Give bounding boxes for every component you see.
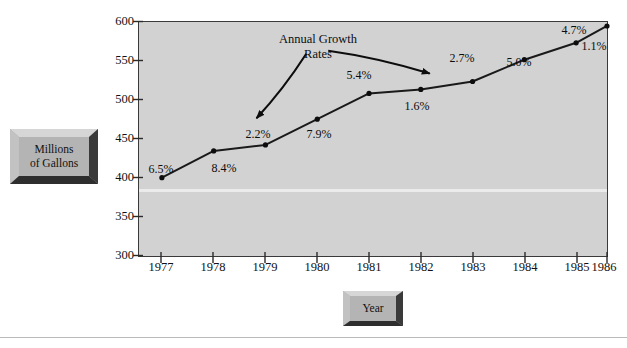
point-label-1980: 7.9% [307, 128, 332, 140]
data-markers [159, 23, 609, 180]
x-tick-1982: 1982 [409, 261, 434, 274]
point-label-1986: 1.1% [582, 40, 607, 52]
x-tick-1984: 1984 [513, 261, 538, 274]
annotation-label: Annual Growth Rates [258, 32, 378, 63]
footer-divider [0, 337, 627, 338]
point-label-1982: 1.6% [405, 100, 430, 112]
chart-figure: 600 550 500 450 400 350 300 [0, 0, 627, 348]
y-tick-450: 450 [100, 132, 134, 145]
annotation-arrow-left [256, 54, 306, 118]
x-tick-1979: 1979 [253, 261, 278, 274]
data-line [162, 26, 607, 178]
y-axis-caption-box: Millions of Gallons [10, 129, 98, 184]
point-label-1978: 8.4% [212, 162, 237, 174]
x-tick-1978: 1978 [201, 261, 226, 274]
x-tick-1983: 1983 [461, 261, 486, 274]
y-axis-caption-face: Millions of Gallons [19, 137, 89, 176]
x-tick-1981: 1981 [357, 261, 382, 274]
x-axis-caption-face: Year [350, 296, 396, 321]
y-tick-350: 350 [100, 210, 134, 223]
point-label-1984: 5.0% [507, 56, 532, 68]
x-tick-1980: 1980 [305, 261, 330, 274]
point-label-1983: 2.7% [450, 52, 475, 64]
y-tick-300: 300 [100, 249, 134, 262]
point-label-1981: 5.4% [347, 69, 372, 81]
x-tick-1985: 1985 [565, 261, 590, 274]
y-tick-600: 600 [100, 15, 134, 28]
annotation-line-1: Annual Growth [258, 32, 378, 47]
point-label-1977: 6.5% [149, 163, 174, 175]
x-tick-1977: 1977 [149, 261, 174, 274]
y-tick-500: 500 [100, 93, 134, 106]
y-caption-line-1: Millions [30, 143, 78, 157]
y-tick-400: 400 [100, 171, 134, 184]
x-tick-1986: 1986 [592, 261, 617, 274]
point-label-1985: 4.7% [562, 24, 587, 36]
y-axis-tick-labels: 600 550 500 450 400 350 300 [96, 0, 134, 348]
x-axis-tick-labels: 1977 1978 1979 1980 1981 1982 1983 1984 … [138, 261, 608, 279]
x-axis-caption-box: Year [343, 291, 403, 326]
y-caption-line-2: of Gallons [30, 157, 78, 171]
y-tick-550: 550 [100, 54, 134, 67]
annotation-line-2: Rates [258, 47, 378, 62]
point-label-1979: 2.2% [246, 128, 271, 140]
